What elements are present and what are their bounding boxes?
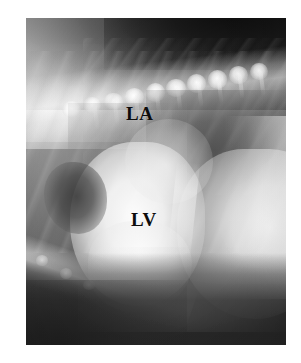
vertebra bbox=[83, 97, 101, 114]
vertebra bbox=[229, 66, 248, 84]
costal-cartilage bbox=[83, 280, 94, 290]
annotation-label-la: LA bbox=[126, 104, 153, 123]
top-air-band-core bbox=[104, 18, 286, 70]
vertebra bbox=[208, 70, 227, 88]
figure-container: LA LV bbox=[0, 0, 301, 363]
dorsal-soft-tissue bbox=[26, 18, 192, 149]
rib-striations-caudal bbox=[83, 38, 286, 195]
vertebra bbox=[62, 101, 80, 118]
spinous-process bbox=[238, 74, 245, 99]
film-base bbox=[26, 18, 286, 345]
spinous-process bbox=[196, 82, 203, 107]
vertebra bbox=[187, 74, 206, 92]
cardiac-apex bbox=[88, 221, 192, 313]
spinous-process bbox=[155, 91, 162, 116]
top-air-band bbox=[26, 18, 286, 110]
thoracic-spine bbox=[26, 42, 286, 145]
sternal-band bbox=[26, 222, 198, 336]
spinous-process bbox=[175, 86, 182, 111]
spinous-process bbox=[259, 71, 266, 96]
gas-lucency bbox=[44, 162, 106, 234]
vertebra bbox=[166, 79, 185, 97]
bottom-air-band bbox=[26, 253, 286, 345]
radiograph-image bbox=[26, 18, 286, 345]
film-grain bbox=[26, 18, 286, 345]
caudal-lung-field bbox=[146, 90, 286, 221]
spinous-process bbox=[217, 78, 224, 103]
left-atrium-region bbox=[125, 119, 213, 204]
caudal-vena-cava bbox=[167, 161, 201, 261]
vertebra bbox=[250, 63, 268, 80]
spinous-process bbox=[92, 105, 99, 130]
annotation-label-lv: LV bbox=[131, 210, 157, 229]
diaphragm-curve bbox=[78, 247, 286, 332]
spinous-process bbox=[113, 100, 120, 125]
diaphragm-liver bbox=[177, 149, 286, 319]
vertebra bbox=[104, 93, 123, 111]
liver-right-margin bbox=[224, 116, 286, 299]
bottom-air-band-core bbox=[26, 280, 187, 345]
costal-cartilage bbox=[36, 255, 48, 266]
vertebra bbox=[146, 83, 165, 101]
dorsal-soft-tissue-core bbox=[26, 44, 172, 142]
costal-cartilage bbox=[60, 268, 72, 279]
film-vignette bbox=[26, 18, 286, 345]
